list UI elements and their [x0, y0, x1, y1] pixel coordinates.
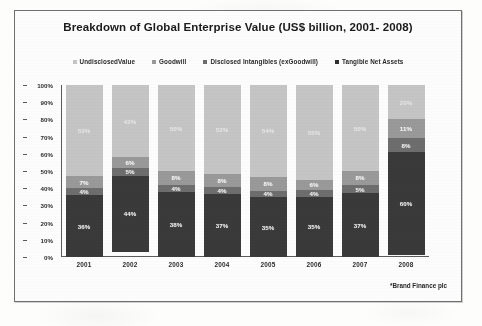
- bar-segment[interactable]: 4%: [66, 188, 103, 195]
- legend-label: Goodwill: [159, 58, 186, 65]
- bar-column[interactable]: 52%8%4%37%: [199, 85, 245, 257]
- stacked-bar[interactable]: 54%8%4%35%: [250, 85, 287, 257]
- stacked-bar[interactable]: 20%11%8%60%: [388, 85, 425, 257]
- x-axis-tick-label: 2002: [107, 261, 153, 268]
- stacked-bar[interactable]: 50%8%5%37%: [342, 85, 379, 257]
- y-axis-tick-label: 50%: [41, 168, 53, 175]
- bar-segment[interactable]: 50%: [158, 85, 195, 171]
- stacked-bar[interactable]: 55%6%4%35%: [296, 85, 333, 257]
- source-note: *Brand Finance plc: [390, 282, 447, 289]
- bar-column[interactable]: 53%7%4%36%: [61, 85, 107, 257]
- bar-segment[interactable]: 38%: [158, 192, 195, 257]
- bar-column[interactable]: 55%6%4%35%: [291, 85, 337, 257]
- bar-segment-label: 42%: [124, 118, 137, 125]
- legend-item-tangible-net-assets[interactable]: Tangible Net Assets: [335, 58, 403, 65]
- x-axis-tick-label: 2008: [383, 261, 429, 268]
- x-axis-tick-label: 2001: [61, 261, 107, 268]
- bar-segment[interactable]: 44%: [112, 176, 149, 252]
- y-axis-tick-label: 0%: [44, 254, 53, 261]
- stacked-bar[interactable]: 50%8%4%38%: [158, 85, 195, 257]
- y-axis: 100%90%80%70%60%50%40%30%20%10%0%: [27, 85, 57, 257]
- y-axis-tick-label: 20%: [41, 219, 53, 226]
- bar-segment[interactable]: 5%: [342, 185, 379, 194]
- bar-segment[interactable]: 60%: [388, 152, 425, 255]
- bar-segment-label: 4%: [171, 185, 180, 192]
- x-axis-tick-label: 2005: [245, 261, 291, 268]
- bar-segment[interactable]: 35%: [296, 197, 333, 257]
- x-axis: 20012002200320042005200620072008: [61, 261, 429, 268]
- bar-segment-label: 11%: [400, 125, 412, 132]
- stacked-bar[interactable]: 42%6%5%44%: [112, 85, 149, 257]
- bar-segment[interactable]: 8%: [388, 138, 425, 152]
- y-axis-tick-mark: [23, 137, 27, 138]
- legend-item-disclosed-intangibles[interactable]: Disclosed Intangibles (exGoodwill): [203, 58, 318, 65]
- bar-segment[interactable]: 4%: [158, 185, 195, 192]
- bar-segment[interactable]: 35%: [250, 197, 287, 257]
- bar-segment-label: 8%: [217, 177, 226, 184]
- y-axis-tick-mark: [23, 119, 27, 120]
- chart-legend: UndisclosedValue Goodwill Disclosed Inta…: [15, 58, 461, 65]
- bar-segment-label: 4%: [217, 187, 226, 194]
- stacked-bar[interactable]: 53%7%4%36%: [66, 85, 103, 257]
- bar-series-container: 53%7%4%36%42%6%5%44%50%8%4%38%52%8%4%37%…: [61, 85, 429, 257]
- bar-segment-label: 37%: [354, 222, 367, 229]
- bar-segment[interactable]: 36%: [66, 195, 103, 257]
- y-axis-tick-label: 40%: [41, 185, 53, 192]
- y-axis-tick-mark: [23, 102, 27, 103]
- bar-segment[interactable]: 6%: [112, 157, 149, 167]
- bar-segment[interactable]: 6%: [296, 180, 333, 190]
- bar-segment[interactable]: 8%: [250, 177, 287, 191]
- bar-segment[interactable]: 55%: [296, 85, 333, 180]
- bar-segment[interactable]: 5%: [112, 168, 149, 177]
- bar-column[interactable]: 50%8%5%37%: [337, 85, 383, 257]
- bar-segment-label: 55%: [308, 129, 321, 136]
- bar-segment-label: 35%: [262, 224, 275, 231]
- bar-segment-label: 6%: [309, 181, 318, 188]
- y-axis-tick-mark: [23, 223, 27, 224]
- bar-segment[interactable]: 52%: [204, 85, 241, 174]
- bar-segment[interactable]: 37%: [204, 194, 241, 257]
- bar-segment[interactable]: 54%: [250, 85, 287, 177]
- bar-segment-label: 8%: [171, 174, 180, 181]
- stacked-bar[interactable]: 52%8%4%37%: [204, 85, 241, 257]
- bar-segment[interactable]: 8%: [342, 171, 379, 185]
- legend-item-undisclosed-value[interactable]: UndisclosedValue: [73, 58, 136, 65]
- bar-segment[interactable]: 8%: [204, 174, 241, 188]
- x-axis-tick-label: 2004: [199, 261, 245, 268]
- bar-segment[interactable]: 42%: [112, 85, 149, 157]
- bar-column[interactable]: 42%6%5%44%: [107, 85, 153, 257]
- y-axis-tick-label: 30%: [41, 202, 53, 209]
- y-axis-tick-mark: [23, 154, 27, 155]
- y-axis-tick-label: 80%: [41, 116, 53, 123]
- legend-swatch-icon: [73, 60, 77, 64]
- bar-column[interactable]: 54%8%4%35%: [245, 85, 291, 257]
- legend-label: Tangible Net Assets: [342, 58, 403, 65]
- bar-segment-label: 6%: [125, 159, 134, 166]
- y-axis-tick-mark: [23, 257, 27, 258]
- legend-item-goodwill[interactable]: Goodwill: [152, 58, 186, 65]
- y-axis-tick-label: 10%: [41, 236, 53, 243]
- bar-segment[interactable]: 8%: [158, 171, 195, 185]
- bar-segment-label: 38%: [170, 221, 183, 228]
- bar-segment-label: 20%: [400, 99, 413, 106]
- bar-segment-label: 36%: [78, 223, 91, 230]
- bar-segment-label: 5%: [125, 168, 134, 175]
- bar-column[interactable]: 20%11%8%60%: [383, 85, 429, 257]
- bar-segment[interactable]: 20%: [388, 85, 425, 119]
- bar-segment[interactable]: 50%: [342, 85, 379, 171]
- bar-segment-label: 50%: [170, 125, 183, 132]
- bar-column[interactable]: 50%8%4%38%: [153, 85, 199, 257]
- bar-segment[interactable]: 37%: [342, 193, 379, 257]
- bar-segment[interactable]: 7%: [66, 176, 103, 188]
- legend-label: Disclosed Intangibles (exGoodwill): [210, 58, 318, 65]
- bar-segment[interactable]: 53%: [66, 85, 103, 176]
- bar-segment[interactable]: 4%: [204, 187, 241, 194]
- legend-swatch-icon: [335, 60, 339, 64]
- bar-segment[interactable]: 4%: [296, 190, 333, 197]
- bar-segment[interactable]: 4%: [250, 191, 287, 198]
- y-axis-tick-mark: [23, 205, 27, 206]
- x-axis-tick-label: 2007: [337, 261, 383, 268]
- bar-segment-label: 7%: [79, 179, 88, 186]
- bar-segment-label: 44%: [124, 210, 137, 217]
- bar-segment[interactable]: 11%: [388, 119, 425, 138]
